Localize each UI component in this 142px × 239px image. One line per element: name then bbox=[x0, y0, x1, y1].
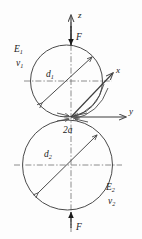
top-force-label: F bbox=[75, 32, 82, 42]
hertzian-contact-figure: z x y F F E1 v1 d1 d2 E2 v2 2a bbox=[0, 0, 142, 239]
contact-arc-upper bbox=[72, 84, 104, 117]
bottom-force-label: F bbox=[75, 222, 82, 232]
y-axis-label: y bbox=[128, 106, 133, 116]
upper-modulus-label: E1 bbox=[13, 44, 23, 55]
x-axis-arrow bbox=[71, 73, 113, 117]
x-axis-label: x bbox=[115, 65, 120, 75]
lower-diameter-label: d2 bbox=[44, 149, 52, 160]
upper-poisson-label: v1 bbox=[16, 58, 23, 69]
upper-diameter-label: d1 bbox=[46, 69, 54, 80]
upper-diameter-arrow bbox=[42, 57, 92, 103]
z-axis-label: z bbox=[77, 10, 82, 20]
contact-mechanics-diagram: z x y F F E1 v1 d1 d2 E2 v2 2a bbox=[0, 0, 142, 239]
contact-width-label: 2a bbox=[63, 125, 73, 135]
lower-diameter-arrow bbox=[38, 135, 97, 193]
contact-dimension-left bbox=[57, 113, 69, 116]
lower-modulus-label: E2 bbox=[105, 182, 115, 193]
lower-poisson-label: v2 bbox=[108, 196, 115, 207]
